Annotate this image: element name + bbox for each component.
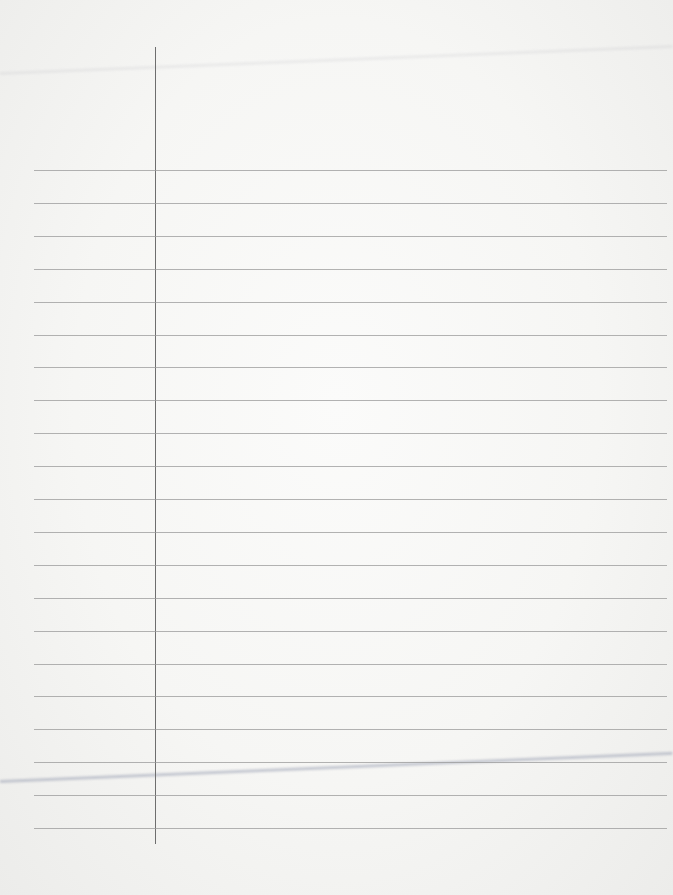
ruled-paper: [0, 0, 673, 895]
margin-line: [155, 47, 156, 844]
ruled-line: [34, 631, 667, 632]
ruled-line: [34, 729, 667, 730]
ruled-line: [34, 203, 667, 204]
ruled-line: [34, 335, 667, 336]
ruled-line: [34, 302, 667, 303]
ruled-line: [34, 565, 667, 566]
ruled-line: [34, 466, 667, 467]
ruled-line: [34, 762, 667, 763]
shadow-streak-bottom: [0, 752, 673, 783]
ruled-line: [34, 236, 667, 237]
ruled-line: [34, 828, 667, 829]
ruled-line: [34, 170, 667, 171]
ruled-line: [34, 598, 667, 599]
ruled-line: [34, 795, 667, 796]
ruled-line: [34, 400, 667, 401]
ruled-line: [34, 367, 667, 368]
ruled-line: [34, 433, 667, 434]
ruled-line: [34, 269, 667, 270]
ruled-line: [34, 664, 667, 665]
ruled-line: [34, 532, 667, 533]
ruled-line: [34, 696, 667, 697]
shadow-streak-top: [0, 45, 673, 75]
ruled-line: [34, 499, 667, 500]
